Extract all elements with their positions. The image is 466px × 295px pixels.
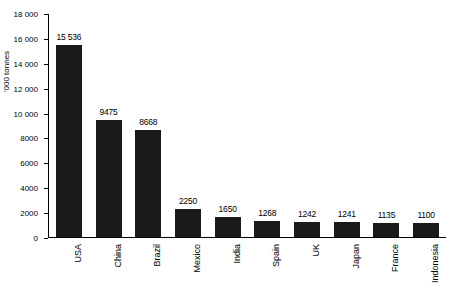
y-axis-tick: 2000 — [44, 213, 48, 214]
y-axis-tick-label: 10 000 — [14, 109, 38, 118]
x-axis-category-label: Brazil — [152, 244, 162, 267]
bar — [96, 120, 122, 237]
y-axis-tick: 12 000 — [44, 89, 48, 90]
y-axis-tick: 14 000 — [44, 64, 48, 65]
x-axis-category-label: India — [232, 244, 242, 264]
x-axis-category-label: UK — [311, 244, 321, 257]
plot-area: 0200040006000800010 00012 00014 00016 00… — [48, 14, 446, 238]
bar-value-label: 1135 — [378, 210, 395, 220]
bar-value-label: 1268 — [258, 208, 276, 218]
y-axis-tick-label: 4000 — [20, 184, 38, 193]
x-axis-category-label: China — [113, 244, 123, 268]
y-axis-tick-label: 16 000 — [14, 34, 38, 43]
y-axis-tick-label: 6000 — [20, 159, 38, 168]
bar — [135, 130, 161, 237]
x-axis-line — [48, 237, 446, 238]
x-axis-category-label: Indonesia — [430, 244, 440, 283]
x-axis-category-label: Mexico — [192, 244, 202, 273]
y-axis-tick-label: 8000 — [20, 134, 38, 143]
bar-value-label: 2250 — [179, 196, 197, 206]
bar-value-label: 15 536 — [56, 32, 81, 42]
bar — [413, 223, 439, 237]
bar — [175, 209, 201, 237]
y-axis-tick: 0 — [44, 238, 48, 239]
y-axis-tick-label: 12 000 — [14, 84, 38, 93]
y-axis-tick: 6000 — [44, 163, 48, 164]
y-axis-tick-label: 14 000 — [14, 59, 38, 68]
bar-series: 15 5369475866822501650126812421241113511… — [49, 14, 446, 237]
bar — [334, 222, 360, 237]
bar-value-label: 8668 — [139, 117, 157, 127]
bar — [215, 217, 241, 237]
bar-value-label: 1100 — [417, 210, 434, 220]
bar-value-label: 1241 — [338, 209, 356, 219]
y-axis-tick: 16 000 — [44, 39, 48, 40]
x-axis-category-label: France — [390, 244, 400, 272]
x-axis-category-label: Spain — [271, 244, 281, 267]
x-axis-category-label: Japan — [351, 244, 361, 269]
y-axis-label: '000 tonnes — [2, 51, 11, 92]
y-axis-tick: 8000 — [44, 138, 48, 139]
bar-value-label: 1650 — [219, 204, 237, 214]
y-axis-tick-label: 2000 — [20, 209, 38, 218]
bar-chart: '000 tonnes 0200040006000800010 00012 00… — [0, 0, 466, 295]
y-axis-tick: 4000 — [44, 188, 48, 189]
y-axis-tick-label: 0 — [34, 234, 38, 243]
bar — [56, 45, 82, 237]
y-axis-tick: 10 000 — [44, 114, 48, 115]
x-axis-category-label: USA — [73, 244, 83, 263]
y-axis-tick-label: 18 000 — [14, 10, 38, 19]
bar-value-label: 1242 — [298, 209, 316, 219]
bar — [254, 221, 280, 237]
y-axis-tick: 18 000 — [44, 14, 48, 15]
bar-value-label: 9475 — [99, 107, 117, 117]
bar — [373, 223, 399, 237]
bar — [294, 222, 320, 237]
